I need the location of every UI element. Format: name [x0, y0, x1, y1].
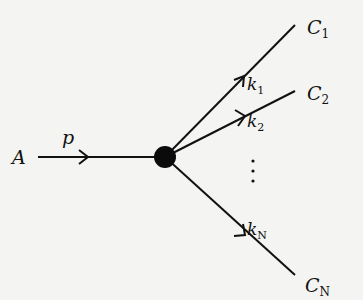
- edge-subscript: 1: [257, 84, 264, 97]
- edge-subscript: N: [257, 229, 267, 242]
- target-label-n: CN: [305, 276, 330, 298]
- edge-subscript: 2: [257, 121, 264, 134]
- target-subscript: N: [320, 285, 331, 299]
- edge-label-2: k2: [247, 113, 264, 133]
- target-subscript: 2: [322, 93, 330, 107]
- edge-label-1: k1: [247, 76, 264, 96]
- target-symbol: C: [307, 82, 322, 104]
- momentum-label: p: [62, 128, 74, 147]
- branch-edge-n: [165, 157, 295, 275]
- branch-edge-2: [165, 91, 295, 157]
- diagram-lines: [0, 0, 363, 300]
- edge-label-n: kN: [247, 221, 267, 241]
- target-symbol: C: [305, 274, 320, 296]
- edge-symbol: k: [247, 219, 257, 239]
- vertex-dot-icon: [154, 146, 176, 168]
- edge-symbol: k: [247, 111, 257, 131]
- ellipsis-dot-icon: [251, 179, 254, 182]
- ellipsis-dot-icon: [251, 169, 254, 172]
- source-label: A: [12, 148, 26, 167]
- target-symbol: C: [307, 16, 322, 38]
- feynman-vertex-diagram: A p C1 C2 CN k1 k2 kN: [0, 0, 363, 300]
- target-label-1: C1: [307, 18, 329, 40]
- target-subscript: 1: [322, 27, 330, 41]
- branch-edge-1: [165, 25, 295, 157]
- target-label-2: C2: [307, 84, 329, 106]
- edge-symbol: k: [247, 74, 257, 94]
- ellipsis-dot-icon: [251, 159, 254, 162]
